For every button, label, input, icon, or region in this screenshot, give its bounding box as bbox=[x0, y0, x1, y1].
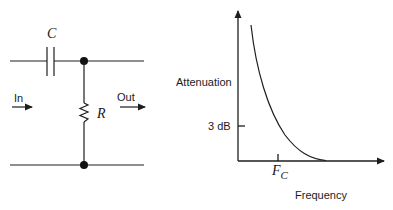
x-tick-label: FC bbox=[271, 163, 289, 181]
resistor-label: R bbox=[96, 106, 106, 121]
bottom-node-dot bbox=[80, 161, 88, 169]
circuit-schematic: C R In Out bbox=[10, 26, 145, 169]
capacitor-label: C bbox=[47, 26, 57, 41]
diagram-canvas: C R In Out Attenuation 3 dB FC bbox=[0, 0, 393, 210]
y-tick-label: 3 dB bbox=[208, 120, 231, 132]
attenuation-curve bbox=[251, 25, 326, 161]
resistor-icon bbox=[80, 103, 88, 122]
x-axis-label: Frequency bbox=[295, 189, 347, 201]
input-label: In bbox=[14, 92, 23, 104]
y-axis-label: Attenuation bbox=[176, 76, 232, 88]
attenuation-graph: Attenuation 3 dB FC Frequency bbox=[176, 11, 384, 201]
capacitor-icon bbox=[47, 47, 54, 76]
output-label: Out bbox=[117, 91, 135, 103]
